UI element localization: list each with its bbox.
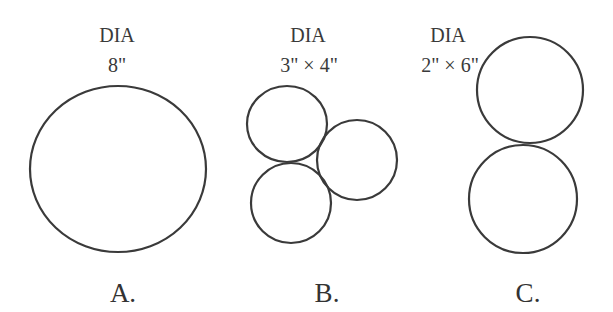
circles-diagram (0, 0, 613, 312)
figure-c-dimension: 2" × 6" (421, 55, 479, 75)
figure-c-header: DIA (430, 25, 466, 45)
figure-c-shapes (469, 37, 583, 253)
figure-b-label: B. (315, 279, 340, 307)
circle-b-top-left (247, 86, 327, 162)
circle-c-top (477, 37, 583, 143)
figure-a-shapes (30, 86, 206, 252)
figure-b-shapes (247, 86, 397, 243)
figure-b-header: DIA (290, 25, 326, 45)
circle-b-bottom-left (251, 163, 331, 243)
figure-a-header: DIA (99, 25, 135, 45)
figure-a-dimension: 8" (108, 55, 126, 75)
figure-a-label: A. (110, 279, 136, 307)
figure-b-dimension: 3" × 4" (280, 55, 338, 75)
circle-c-bottom (469, 145, 577, 253)
circle-a-8in (30, 86, 206, 252)
figure-c-label: C. (516, 279, 541, 307)
